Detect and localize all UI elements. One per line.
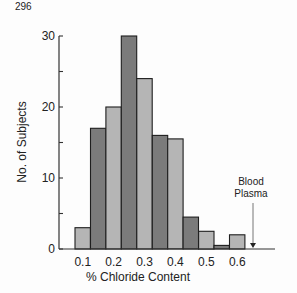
y-tick-label: 10 [42,171,56,185]
y-tick-label: 0 [48,242,55,256]
histogram-chart: 01020300.10.20.30.40.50.6% Chloride Cont… [0,0,297,293]
histogram-bar [121,36,136,249]
bars-group [75,36,245,249]
histogram-bar [75,228,90,249]
histogram-bar [152,135,167,249]
histogram-bar [106,107,121,249]
x-tick-label: 0.1 [74,255,91,269]
histogram-bar [214,245,229,249]
x-tick-label: 0.6 [229,255,246,269]
x-tick-label: 0.5 [198,255,215,269]
x-axis-title: % Chloride Content [86,270,191,284]
y-tick-label: 20 [42,100,56,114]
annotation-label: Blood [238,176,264,187]
annotation-label: Plasma [234,188,268,199]
y-tick-label: 30 [42,29,56,43]
histogram-bar [137,79,152,249]
x-tick-label: 0.4 [167,255,184,269]
histogram-bar [91,128,106,249]
arrow-down-icon [250,243,256,248]
histogram-bar [199,231,214,249]
histogram-bar [230,235,245,249]
histogram-bar [168,139,183,249]
histogram-bar [183,217,198,249]
x-tick-label: 0.2 [105,255,122,269]
x-tick-label: 0.3 [136,255,153,269]
y-axis-title: No. of Subjects [15,101,29,182]
